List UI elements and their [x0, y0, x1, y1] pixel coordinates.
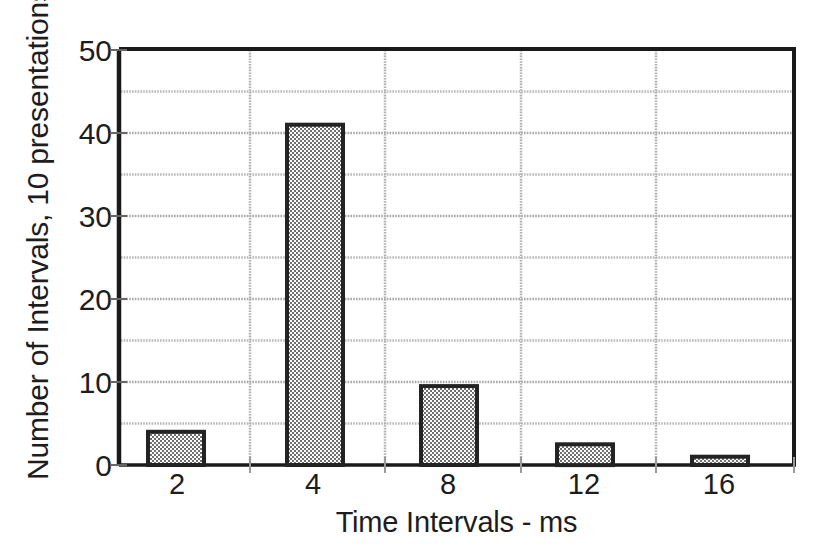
bar-series	[148, 125, 748, 465]
chart-figure: Number of Intervals, 10 presentations 50…	[0, 0, 833, 554]
bar-2	[148, 432, 204, 465]
plot-area	[0, 0, 833, 554]
bar-16	[692, 457, 748, 465]
bar-4	[287, 125, 343, 465]
bar-12	[557, 444, 613, 465]
bar-8	[421, 386, 477, 465]
